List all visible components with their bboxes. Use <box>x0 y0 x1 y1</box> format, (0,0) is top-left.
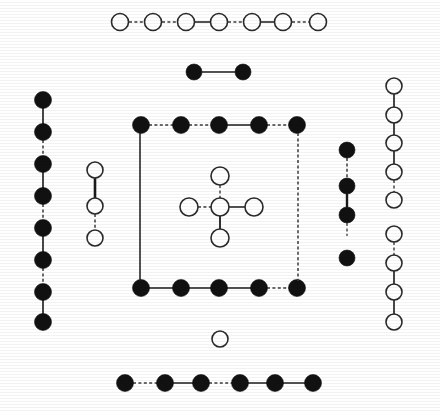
atom-open <box>244 14 261 31</box>
atom-filled <box>35 314 52 331</box>
atom-filled <box>133 280 150 297</box>
atom-filled <box>35 284 52 301</box>
atom-open <box>386 78 402 94</box>
atom-group-lower-isolated-open-atom <box>212 331 228 347</box>
atom-open <box>310 14 327 31</box>
atom-open <box>386 135 402 151</box>
atom-open <box>386 255 402 271</box>
atom-filled <box>289 280 306 297</box>
atom-filled <box>235 64 251 80</box>
atom-filled <box>339 207 355 223</box>
atom-filled <box>35 124 52 141</box>
atom-open <box>180 198 198 216</box>
atom-open <box>87 230 103 246</box>
atom-open <box>87 198 103 214</box>
atom-filled <box>186 64 202 80</box>
atom-open <box>211 14 228 31</box>
atom-open <box>386 314 402 330</box>
atom-open <box>145 14 162 31</box>
structure-figure <box>0 0 440 411</box>
atom-filled <box>157 375 174 392</box>
atom-filled <box>35 252 52 269</box>
atom-open <box>386 107 402 123</box>
atom-open <box>386 226 402 242</box>
atom-filled <box>251 280 268 297</box>
atom-filled <box>339 178 355 194</box>
atom-filled <box>211 280 228 297</box>
atom-filled <box>267 375 284 392</box>
atom-filled <box>289 117 306 134</box>
atom-filled <box>339 250 355 266</box>
atom-group-left-inner-open-chain <box>87 162 103 246</box>
atom-filled <box>35 156 52 173</box>
atom-open <box>245 198 263 216</box>
atom-filled <box>232 375 249 392</box>
atom-open <box>212 331 228 347</box>
atom-filled <box>193 375 210 392</box>
atom-open <box>87 162 103 178</box>
atom-filled <box>173 117 190 134</box>
atom-open <box>386 192 402 208</box>
structure-diagram-canvas <box>0 0 440 411</box>
atom-filled <box>339 142 355 158</box>
atom-filled <box>305 375 322 392</box>
atom-filled <box>35 92 52 109</box>
atom-filled <box>35 188 52 205</box>
atom-open <box>211 229 229 247</box>
atom-open <box>386 164 402 180</box>
atom-filled <box>35 220 52 237</box>
atom-open <box>178 14 195 31</box>
atom-filled <box>133 117 150 134</box>
atom-filled <box>173 280 190 297</box>
atom-open <box>275 14 292 31</box>
atom-open <box>211 198 229 216</box>
atom-filled <box>211 117 228 134</box>
atom-filled <box>117 375 134 392</box>
atom-open <box>112 14 129 31</box>
atom-open <box>211 167 229 185</box>
atom-filled <box>251 117 268 134</box>
atom-open <box>386 284 402 300</box>
atom-group-right-open-column <box>386 78 402 330</box>
